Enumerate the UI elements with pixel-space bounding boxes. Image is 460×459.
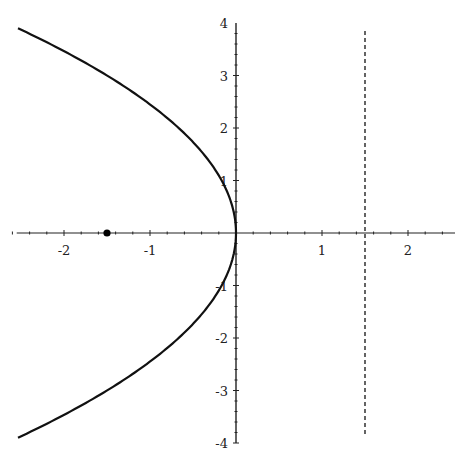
x-tick-label: 2 xyxy=(404,243,412,258)
y-tick-label: -4 xyxy=(215,436,228,451)
y-tick-label: 3 xyxy=(220,69,228,84)
y-tick-label: -3 xyxy=(215,384,228,399)
x-tick-label: -1 xyxy=(144,243,157,258)
chart-plot: -2-112-4-3-2-11234 xyxy=(0,0,460,459)
y-tick-label: 2 xyxy=(220,121,228,136)
y-tick-label: -2 xyxy=(215,331,228,346)
x-tick-label: 1 xyxy=(318,243,326,258)
y-tick-label: 4 xyxy=(220,16,228,31)
focus-point xyxy=(103,229,110,236)
axis-ticks xyxy=(12,34,442,444)
x-tick-label: -2 xyxy=(58,243,71,258)
